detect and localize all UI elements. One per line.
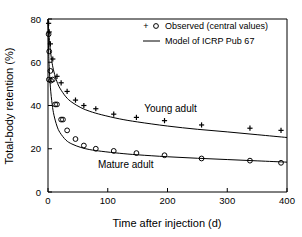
annotation-young-adult: Young adult xyxy=(144,103,197,114)
observed-marker-plus xyxy=(65,89,70,94)
annotation-layer: Young adultMature adult xyxy=(98,103,197,170)
x-tick-label: 100 xyxy=(100,195,116,206)
x-axis-label: Time after injection (d) xyxy=(112,217,221,229)
observed-marker-plus xyxy=(278,128,283,133)
observed-marker-circle xyxy=(81,143,86,148)
chart-figure: 020406080 0100200300400 Time after injec… xyxy=(0,0,302,237)
observed-marker-plus xyxy=(59,80,64,85)
chart-canvas: 020406080 0100200300400 Time after injec… xyxy=(0,0,302,237)
y-tick-label: 80 xyxy=(30,14,41,25)
observed-marker-circle xyxy=(279,160,284,165)
observed-marker-plus xyxy=(81,103,86,108)
observed-marker-plus xyxy=(199,122,204,127)
legend-label-model: Model of ICRP Pub 67 xyxy=(165,36,254,46)
y-tick-label: 60 xyxy=(30,57,41,68)
observed-marker-plus xyxy=(247,126,252,131)
x-tick-label: 200 xyxy=(160,195,176,206)
legend-marker-plus: + xyxy=(143,21,148,31)
x-tick-label: 300 xyxy=(219,195,235,206)
observed-marker-circle xyxy=(48,69,53,74)
x-tick-label: 0 xyxy=(45,195,50,206)
y-tick-label: 0 xyxy=(36,187,41,198)
x-tick-label: 400 xyxy=(279,195,295,206)
legend-marker-circle xyxy=(154,24,159,29)
legend-item-observed: + Observed (central values) xyxy=(143,21,268,31)
annotation-mature-adult: Mature adult xyxy=(98,159,154,170)
y-axis-label: Total-body retention (%) xyxy=(3,48,15,165)
x-axis-ticks: 0100200300400 xyxy=(45,188,295,206)
y-tick-label: 40 xyxy=(30,100,41,111)
observed-marker-plus xyxy=(134,115,139,120)
observed-marker-plus xyxy=(73,97,78,102)
chart-legend: + Observed (central values) Model of ICR… xyxy=(143,21,268,46)
observed-marker-circle xyxy=(65,128,70,133)
observed-marker-plus xyxy=(111,112,116,117)
legend-item-model: Model of ICRP Pub 67 xyxy=(143,36,254,46)
legend-label-observed: Observed (central values) xyxy=(165,21,268,31)
observed-marker-plus xyxy=(162,118,167,123)
observed-marker-circle xyxy=(73,137,78,142)
y-tick-label: 20 xyxy=(30,143,41,154)
observed-marker-plus xyxy=(93,106,98,111)
